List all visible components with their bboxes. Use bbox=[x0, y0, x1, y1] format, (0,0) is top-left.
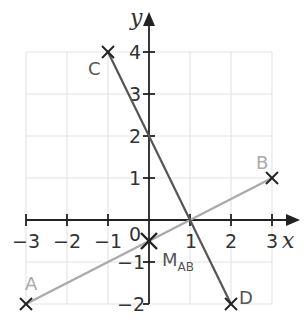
x-tick-label: −2 bbox=[53, 230, 81, 252]
point-b-label: B bbox=[256, 152, 268, 173]
x-axis-label: x bbox=[282, 228, 295, 253]
x-tick-label: 3 bbox=[266, 230, 278, 252]
point-a-label: A bbox=[25, 273, 38, 294]
x-axis-arrow-icon bbox=[286, 214, 300, 226]
x-tick-label: −1 bbox=[94, 230, 122, 252]
coordinate-plane: x y −3 −2 −1 1 2 3 0 4 3 2 1 −1 −2 A B C… bbox=[0, 0, 306, 327]
y-axis-arrow-icon bbox=[143, 12, 155, 26]
y-tick-label: 2 bbox=[129, 125, 141, 147]
point-m-main: M bbox=[162, 249, 178, 270]
y-tick-label: 1 bbox=[129, 167, 141, 189]
y-tick-label: −2 bbox=[117, 293, 145, 315]
point-c-label: C bbox=[88, 58, 101, 79]
y-tick-label: 4 bbox=[129, 41, 141, 63]
x-tick-label: 2 bbox=[225, 230, 237, 252]
point-d-label: D bbox=[239, 287, 253, 308]
origin-label: 0 bbox=[129, 223, 141, 245]
point-m-subscript: AB bbox=[178, 260, 194, 274]
x-tick-label: −3 bbox=[12, 230, 40, 252]
point-m-label: MAB bbox=[162, 249, 194, 274]
y-axis-label: y bbox=[129, 5, 143, 30]
y-tick-label: 3 bbox=[129, 83, 141, 105]
